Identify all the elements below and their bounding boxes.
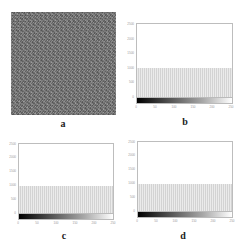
xtick: 250 — [108, 221, 118, 225]
xtick: 50 — [150, 105, 160, 109]
caption-c: c — [54, 230, 74, 241]
caption-a: a — [53, 118, 73, 129]
ytick: 1500 — [4, 169, 16, 173]
caption-d: d — [173, 230, 193, 241]
xtick: 0 — [132, 219, 142, 223]
ytick: 1000 — [123, 181, 135, 185]
caption-b: b — [175, 116, 195, 127]
plot-area-d — [137, 141, 233, 213]
xtick: 0 — [13, 221, 23, 225]
ytick: 0 — [122, 95, 134, 99]
xtick: 100 — [169, 105, 179, 109]
xtick: 100 — [170, 219, 180, 223]
xtick: 250 — [226, 105, 236, 109]
xtick: 50 — [32, 221, 42, 225]
histogram-bars-c — [19, 186, 113, 214]
ytick: 500 — [122, 80, 134, 84]
ytick: 2000 — [122, 37, 134, 41]
colorbar-b — [136, 97, 233, 104]
xtick: 200 — [89, 221, 99, 225]
xtick: 100 — [51, 221, 61, 225]
ytick: 2500 — [123, 140, 135, 144]
xtick: 150 — [189, 219, 199, 223]
ytick: 0 — [123, 209, 135, 213]
plot-area-c — [18, 143, 114, 215]
histogram-bars-d — [138, 184, 232, 212]
xtick: 150 — [188, 105, 198, 109]
ytick: 2500 — [4, 142, 16, 146]
ytick: 1500 — [123, 167, 135, 171]
xtick: 200 — [208, 219, 218, 223]
ytick: 2500 — [122, 22, 134, 26]
colorbar-c — [18, 213, 114, 220]
xtick: 150 — [70, 221, 80, 225]
ytick: 1000 — [4, 183, 16, 187]
xtick: 50 — [151, 219, 161, 223]
xtick: 250 — [227, 219, 237, 223]
ytick: 500 — [4, 197, 16, 201]
histogram-bars-b — [137, 68, 232, 97]
ytick: 1000 — [122, 66, 134, 70]
ytick: 0 — [4, 211, 16, 215]
plot-area-b — [136, 23, 233, 98]
ytick: 2000 — [123, 153, 135, 157]
xtick: 200 — [207, 105, 217, 109]
ytick: 1500 — [122, 51, 134, 55]
colorbar-d — [137, 211, 233, 218]
encrypted-image — [11, 12, 116, 115]
ytick: 2000 — [4, 155, 16, 159]
ytick: 500 — [123, 195, 135, 199]
xtick: 0 — [131, 105, 141, 109]
